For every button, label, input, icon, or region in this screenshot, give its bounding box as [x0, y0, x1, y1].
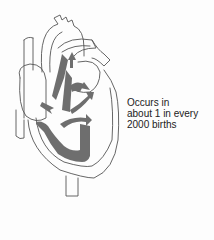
ventricle-wall-shading	[36, 122, 90, 163]
caption-line: 2000 births	[127, 119, 212, 130]
incidence-caption: Occurs in about 1 in every 2000 births	[127, 97, 212, 130]
descending-aorta	[66, 176, 78, 196]
caption-line: about 1 in every	[127, 108, 212, 119]
arrow-icon	[70, 92, 94, 114]
inferior-vena-cava	[16, 110, 24, 139]
arrow-icon	[40, 102, 54, 114]
caption-line: Occurs in	[127, 97, 212, 108]
right-atrium	[19, 64, 46, 121]
pulmonary-artery	[58, 39, 96, 56]
superior-vena-cava	[24, 37, 33, 118]
